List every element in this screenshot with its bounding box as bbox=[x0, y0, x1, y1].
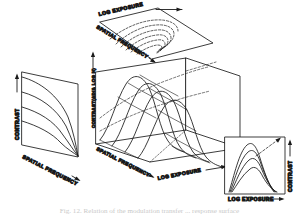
figure-root: LOG EXPOSURE SPATIAL FREQUENCY bbox=[0, 0, 299, 221]
panel-right-projection: LOG EXPOSURE CONTRAST bbox=[225, 137, 293, 202]
center-z-axis-label: CONTRAST(ΔD/Δ LOG H) bbox=[91, 68, 96, 128]
right-y-axis-label: CONTRAST bbox=[287, 160, 293, 192]
left-y-axis-label: CONTRAST bbox=[14, 108, 20, 140]
figure-caption: Fig. 12. Relation of the modulation tran… bbox=[0, 207, 299, 215]
figure-svg: LOG EXPOSURE SPATIAL FREQUENCY bbox=[0, 0, 299, 221]
right-x-axis-label: LOG EXPOSURE bbox=[228, 196, 274, 202]
